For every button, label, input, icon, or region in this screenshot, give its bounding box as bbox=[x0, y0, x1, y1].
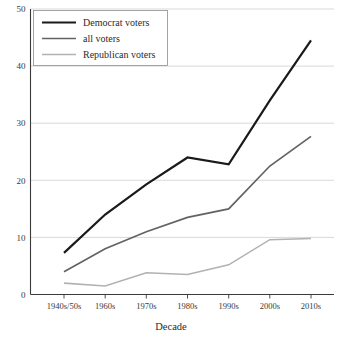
y-tick-label: 30 bbox=[17, 118, 27, 128]
x-tick-label: 2010s bbox=[301, 301, 321, 311]
legend-label: Republican voters bbox=[83, 49, 156, 60]
x-tick-label: 1980s bbox=[177, 301, 197, 311]
y-tick-label: 40 bbox=[17, 61, 27, 71]
chart-canvas: 01020304050 1940s/50s1960s1970s1980s1990… bbox=[0, 0, 342, 341]
y-tick-label: 0 bbox=[21, 290, 26, 300]
x-tick-label: 1940s/50s bbox=[47, 301, 81, 311]
y-tick-label: 50 bbox=[17, 4, 27, 14]
x-tick-label: 2000s bbox=[260, 301, 280, 311]
y-tick-label: 20 bbox=[17, 176, 27, 186]
x-tick-label: 1960s bbox=[95, 301, 115, 311]
x-tick-label: 1970s bbox=[136, 301, 156, 311]
legend-label: all voters bbox=[83, 33, 120, 44]
x-tick-label: 1990s bbox=[219, 301, 239, 311]
x-axis-title: Decade bbox=[155, 321, 187, 332]
y-tick-label: 10 bbox=[17, 233, 27, 243]
chart-legend: Democrat votersall votersRepublican vote… bbox=[34, 11, 168, 66]
legend-label: Democrat voters bbox=[83, 17, 149, 28]
line-chart: 01020304050 1940s/50s1960s1970s1980s1990… bbox=[0, 0, 342, 341]
